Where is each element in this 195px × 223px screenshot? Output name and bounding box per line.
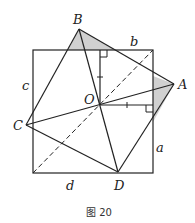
figure-caption: 图 20 (86, 207, 112, 218)
shaded-triangle-right (153, 76, 174, 122)
label-O: O (84, 92, 95, 107)
label-side-b: b (130, 34, 138, 49)
right-angle-marker-top (100, 50, 107, 57)
segment-BA (79, 29, 174, 84)
segment-DC (26, 125, 118, 172)
label-side-c: c (22, 78, 30, 93)
segment-CB (26, 29, 79, 125)
shaded-triangle-top (68, 29, 115, 50)
label-side-d: d (66, 178, 74, 193)
label-B: B (72, 12, 83, 27)
label-C: C (13, 118, 23, 133)
label-side-a: a (156, 140, 164, 155)
geometry-figure: B A C D O b c a d 图 20 (0, 0, 195, 223)
right-angle-marker-right (146, 105, 153, 112)
label-A: A (177, 77, 187, 92)
label-D: D (113, 178, 125, 193)
dashed-diagonal (33, 50, 153, 173)
